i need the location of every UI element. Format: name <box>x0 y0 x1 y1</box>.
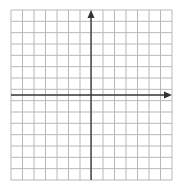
x-axis-arrow-icon <box>164 92 172 99</box>
y-axis-arrow-icon <box>88 10 95 18</box>
coordinate-plane <box>0 0 181 182</box>
